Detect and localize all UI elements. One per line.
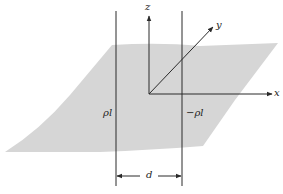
- separation-label: d: [146, 170, 152, 180]
- x-axis-label: x: [274, 88, 280, 98]
- ground-plane: [5, 43, 278, 152]
- right-charge-label: −ρl: [186, 108, 203, 118]
- diagram-canvas: [0, 0, 283, 194]
- y-axis-label: y: [216, 20, 222, 30]
- z-axis-label: z: [145, 2, 150, 12]
- left-charge-label: ρl: [103, 108, 112, 118]
